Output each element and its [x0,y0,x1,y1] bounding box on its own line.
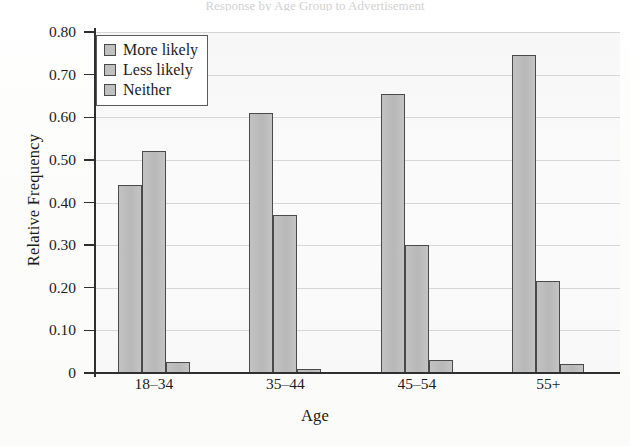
gridline [94,117,620,118]
legend-swatch-icon [104,44,116,56]
x-axis-tick-label: 18–34 [94,375,214,393]
bar-4554-less-likely [405,245,429,373]
legend-item-more-likely[interactable]: More likely [104,40,198,60]
y-axis-tick-mark [84,372,95,373]
gridline [94,160,620,161]
bar-55+-less-likely [536,281,560,373]
bar-4554-more-likely [381,94,405,373]
y-axis-title: Relative Frequency [24,80,44,320]
y-axis-tick-mark [84,244,95,245]
legend-item-label: Less likely [123,62,193,78]
bar-fill [513,56,535,372]
x-axis-tick-label: 45–54 [357,375,477,393]
legend-swatch-icon [104,84,116,96]
legend-swatch-icon [104,64,116,76]
y-axis-tick-mark [84,31,95,32]
gridline [94,203,620,204]
bar-fill [250,114,272,372]
bar-1834-more-likely [118,185,142,373]
y-axis-tick-mark [84,159,95,160]
y-axis-tick-mark [84,74,95,75]
bar-3544-less-likely [273,215,297,373]
bar-fill [382,95,404,372]
bar-fill [406,246,428,372]
bar-fill [537,282,559,372]
y-axis-tick-mark [84,117,95,118]
bar-fill [430,361,452,372]
x-axis-title: Age [0,406,630,426]
gridline [94,245,620,246]
x-axis-line [86,372,620,374]
bar-1834-less-likely [142,151,166,373]
gridline [94,32,620,33]
legend: More likelyLess likelyNeither [96,35,208,106]
y-axis-tick-label: 0 [22,365,76,381]
y-axis-tick-label: 0.80 [22,24,76,40]
bar-fill [274,216,296,372]
legend-item-label: Neither [123,82,171,98]
bar-fill [143,152,165,372]
bar-fill [167,363,189,373]
bar-fill [119,186,141,372]
legend-item-neither[interactable]: Neither [104,80,198,100]
y-axis-tick-mark [84,287,95,288]
legend-item-label: More likely [123,42,198,58]
y-axis-tick-label: 0.10 [22,322,76,338]
x-axis-tick-label: 35–44 [225,375,345,393]
legend-item-less-likely[interactable]: Less likely [104,60,198,80]
bar-chart: Response by Age Group to Advertisement 0… [0,0,630,446]
bar-3544-more-likely [249,113,273,373]
bar-55+-more-likely [512,55,536,373]
y-axis-tick-mark [84,330,95,331]
y-axis-tick-mark [84,202,95,203]
clipped-chart-title: Response by Age Group to Advertisement [0,0,630,11]
x-axis-tick-label: 55+ [488,375,608,393]
